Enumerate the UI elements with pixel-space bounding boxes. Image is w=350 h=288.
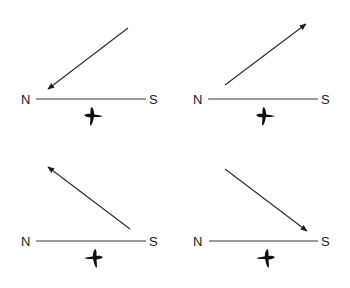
- flight-arrow: [225, 24, 306, 85]
- bird-icon: [256, 249, 275, 268]
- panel-bottom-left: N S: [21, 167, 158, 268]
- flight-arrow: [48, 28, 128, 89]
- bird-icon: [256, 107, 275, 126]
- panel-top-right: N S: [193, 24, 330, 126]
- south-label: S: [321, 234, 330, 249]
- north-label: N: [193, 92, 202, 107]
- flight-arrow: [48, 167, 130, 229]
- north-label: N: [21, 92, 30, 107]
- south-label: S: [149, 234, 158, 249]
- north-label: N: [21, 234, 30, 249]
- bird-icon: [84, 249, 103, 268]
- diagram-canvas: N S N S N S N S: [0, 0, 350, 288]
- south-label: S: [321, 92, 330, 107]
- panel-bottom-right: N S: [193, 169, 330, 268]
- bird-icon: [84, 107, 103, 126]
- north-label: N: [193, 234, 202, 249]
- panel-top-left: N S: [21, 28, 158, 126]
- flight-arrow: [225, 169, 307, 231]
- south-label: S: [149, 92, 158, 107]
